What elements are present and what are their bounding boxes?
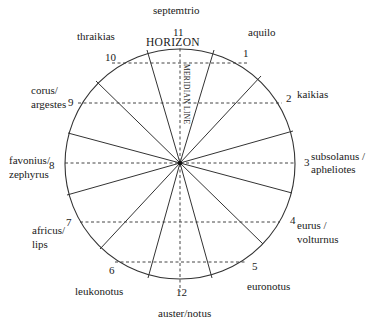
center-point [178, 161, 182, 165]
wind-number-6: 6 [109, 264, 115, 276]
wind-name-3: subsolanus / [311, 150, 365, 163]
wind-name-7: africus/ [32, 224, 65, 237]
wind-name-5: euronotus [247, 280, 290, 293]
wind-name-12: auster/notus [158, 307, 211, 320]
wind-name-7-alt: lips [32, 238, 48, 251]
wind-name-11: septemtrio [153, 4, 199, 17]
wind-number-2: 2 [286, 92, 292, 104]
wind-number-3: 3 [304, 156, 310, 168]
wind-name-8-alt: zephyrus [9, 168, 49, 181]
wind-number-11: 11 [173, 26, 184, 38]
wind-number-4: 4 [290, 214, 296, 226]
wind-number-5: 5 [252, 260, 258, 272]
wind-number-12: 12 [176, 286, 187, 298]
wind-name-4: eurus / [297, 219, 327, 232]
wind-name-9-alt: argestes [31, 98, 66, 111]
wind-name-3-alt: apheliotes [311, 163, 356, 176]
wind-number-9: 9 [68, 96, 74, 108]
wind-name-4-alt: volturnus [297, 233, 339, 246]
wind-name-8: favonius/ [9, 154, 50, 167]
wind-name-6: leukonotus [75, 285, 123, 298]
wind-name-10: thraikias [77, 30, 115, 43]
wind-name-2: kaikias [297, 88, 328, 101]
meridian-line-label: MERIDIAN LINE [182, 64, 191, 124]
wind-number-7: 7 [66, 216, 72, 228]
wind-name-9: corus/ [31, 84, 58, 97]
wind-name-1: aquilo [248, 26, 276, 39]
dashed-latitude-lines [65, 43, 295, 292]
wind-number-1: 1 [243, 47, 249, 59]
wind-number-10: 10 [105, 51, 116, 63]
